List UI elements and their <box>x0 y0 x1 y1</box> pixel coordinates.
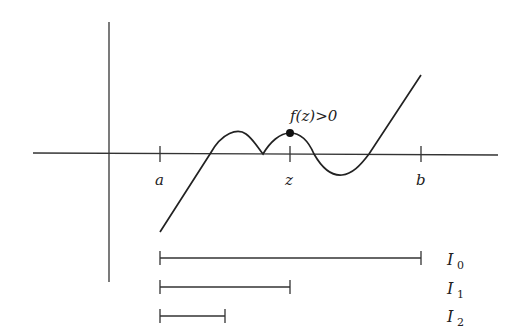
interval-I0: I 0 <box>160 250 464 272</box>
interval-I2: I 2 <box>160 307 464 329</box>
label-b: b <box>416 171 426 189</box>
x-axis <box>33 153 498 155</box>
svg-text:I: I <box>446 279 454 298</box>
svg-text:0: 0 <box>457 259 464 272</box>
label-z: z <box>284 171 293 189</box>
point-f-z <box>286 129 294 137</box>
label-a: a <box>155 171 164 189</box>
svg-text:I: I <box>446 307 454 326</box>
bisection-diagram: a z b f(z)>0 I 0 I 1 I 2 <box>0 0 520 336</box>
interval-I1: I 1 <box>160 279 464 301</box>
annotation-f-z: f(z)>0 <box>289 107 338 125</box>
svg-text:1: 1 <box>457 288 464 301</box>
svg-text:2: 2 <box>457 316 464 329</box>
svg-text:I: I <box>446 250 454 269</box>
